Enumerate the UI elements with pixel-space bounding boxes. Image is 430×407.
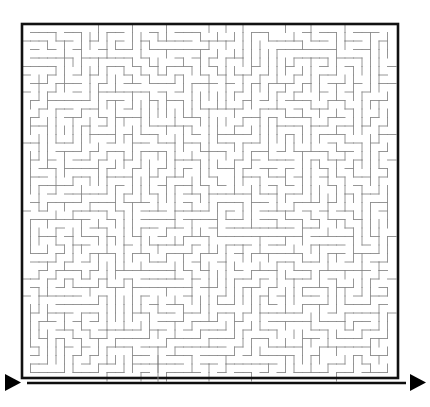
maze-canvas[interactable] [0,0,430,407]
maze-puzzle [0,0,430,407]
